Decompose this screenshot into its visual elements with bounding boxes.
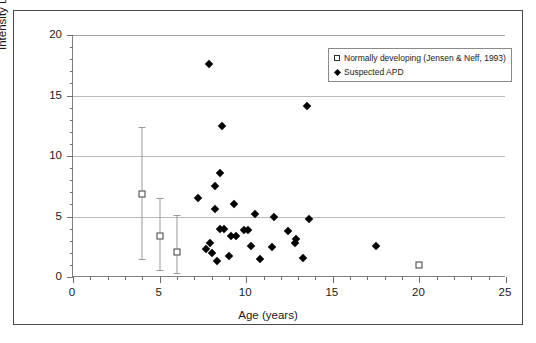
y-axis-tick-minor xyxy=(70,204,73,205)
gridline xyxy=(73,217,505,218)
y-tick-label: 15 xyxy=(0,90,62,102)
error-bar xyxy=(176,215,177,273)
x-axis-tick-major xyxy=(160,277,161,283)
x-axis-tick-minor xyxy=(385,277,386,280)
chart-legend: Normally developing (Jensen & Neff, 1993… xyxy=(328,48,512,82)
error-bar-cap xyxy=(173,215,180,216)
data-point xyxy=(299,253,307,261)
filled-diamond-icon xyxy=(333,67,343,77)
y-axis-tick-minor xyxy=(70,47,73,48)
x-axis-tick-minor xyxy=(125,277,126,280)
x-axis-tick-major xyxy=(246,277,247,283)
x-axis-tick-major xyxy=(333,277,334,283)
x-axis-tick-minor xyxy=(454,277,455,280)
data-point xyxy=(284,227,292,235)
y-axis-tick-major xyxy=(67,96,73,97)
y-tick-label: 5 xyxy=(0,211,62,223)
y-axis-tick-minor xyxy=(70,265,73,266)
y-tick-label: 20 xyxy=(0,29,62,41)
legend-item-suspected-apd: Suspected APD xyxy=(333,66,506,78)
error-bar-cap xyxy=(156,270,163,271)
x-axis-tick-minor xyxy=(471,277,472,280)
data-point xyxy=(205,60,213,68)
x-axis-tick-minor xyxy=(90,277,91,280)
x-tick-label: 20 xyxy=(398,287,438,299)
figure-root: Intensity Discrimination Threshold (dB) … xyxy=(0,0,536,343)
gridline xyxy=(73,156,505,157)
legend-label-normally-developing: Normally developing (Jensen & Neff, 1993… xyxy=(344,54,506,63)
y-axis-title: Intensity Discrimination Threshold (dB) xyxy=(0,0,8,50)
y-axis-tick-minor xyxy=(70,144,73,145)
error-bar-cap xyxy=(173,273,180,274)
error-bar-cap xyxy=(139,259,146,260)
y-axis-tick-minor xyxy=(70,180,73,181)
y-tick-label: 10 xyxy=(0,150,62,162)
x-axis-tick-minor xyxy=(108,277,109,280)
x-axis-title: Age (years) xyxy=(0,309,536,321)
y-axis-tick-minor xyxy=(70,83,73,84)
data-point xyxy=(225,252,233,260)
y-axis-tick-minor xyxy=(70,59,73,60)
x-axis-tick-minor xyxy=(298,277,299,280)
data-point xyxy=(211,182,219,190)
y-axis-tick-minor xyxy=(70,71,73,72)
data-point xyxy=(218,122,226,130)
data-point xyxy=(247,241,255,249)
data-point xyxy=(173,248,180,255)
data-point xyxy=(256,255,264,263)
legend-label-suspected-apd: Suspected APD xyxy=(344,68,404,77)
data-point xyxy=(216,169,224,177)
x-axis-tick-minor xyxy=(281,277,282,280)
data-point xyxy=(268,243,276,251)
y-axis-tick-minor xyxy=(70,108,73,109)
x-tick-label: 15 xyxy=(312,287,352,299)
y-axis-tick-minor xyxy=(70,132,73,133)
open-square-icon xyxy=(333,53,343,63)
x-axis-tick-minor xyxy=(264,277,265,280)
y-axis-tick-major xyxy=(67,217,73,218)
y-axis-tick-minor xyxy=(70,229,73,230)
x-axis-tick-minor xyxy=(315,277,316,280)
data-point xyxy=(156,232,163,239)
x-tick-label: 5 xyxy=(139,287,179,299)
y-axis-tick-major xyxy=(67,35,73,36)
x-tick-label: 0 xyxy=(52,287,92,299)
x-axis-tick-major xyxy=(506,277,507,283)
x-axis-tick-minor xyxy=(177,277,178,280)
data-point xyxy=(211,205,219,213)
y-tick-label: 0 xyxy=(0,271,62,283)
gridline xyxy=(73,96,505,97)
y-axis-tick-minor xyxy=(70,120,73,121)
x-axis-tick-minor xyxy=(402,277,403,280)
x-axis-tick-minor xyxy=(212,277,213,280)
error-bar-cap xyxy=(156,198,163,199)
y-axis-tick-minor xyxy=(70,241,73,242)
data-point xyxy=(372,241,380,249)
x-axis-tick-minor xyxy=(489,277,490,280)
x-tick-label: 10 xyxy=(225,287,265,299)
x-tick-label: 25 xyxy=(485,287,525,299)
y-axis-tick-minor xyxy=(70,253,73,254)
x-axis-tick-minor xyxy=(367,277,368,280)
data-point xyxy=(416,261,423,268)
data-point xyxy=(139,190,146,197)
x-axis-tick-minor xyxy=(437,277,438,280)
x-axis-tick-minor xyxy=(350,277,351,280)
data-point xyxy=(193,194,201,202)
data-point xyxy=(270,212,278,220)
x-axis-tick-minor xyxy=(194,277,195,280)
y-axis-tick-minor xyxy=(70,168,73,169)
error-bar-cap xyxy=(139,127,146,128)
data-point xyxy=(230,200,238,208)
gridline xyxy=(73,35,505,36)
legend-item-normally-developing: Normally developing (Jensen & Neff, 1993… xyxy=(333,52,506,64)
x-axis-tick-minor xyxy=(142,277,143,280)
x-axis-tick-major xyxy=(73,277,74,283)
y-axis-tick-minor xyxy=(70,192,73,193)
x-axis-tick-minor xyxy=(229,277,230,280)
y-axis-tick-major xyxy=(67,156,73,157)
x-axis-tick-major xyxy=(419,277,420,283)
data-point xyxy=(303,102,311,110)
data-point xyxy=(213,257,221,265)
